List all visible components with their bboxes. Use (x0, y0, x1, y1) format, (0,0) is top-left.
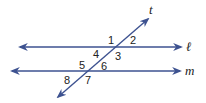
transversal-t (58, 19, 148, 97)
angle-label-7: 7 (85, 74, 91, 86)
line-label-m: m (185, 63, 194, 78)
angle-label-4: 4 (93, 48, 99, 60)
angle-label-2: 2 (130, 34, 136, 46)
angle-label-6: 6 (101, 60, 107, 72)
angle-label-5: 5 (79, 59, 85, 71)
angle-label-3: 3 (115, 50, 121, 62)
angle-label-8: 8 (64, 74, 70, 86)
parallel-lines-diagram: ℓ m t 1 2 3 4 5 6 7 8 (0, 0, 206, 103)
line-label-t: t (149, 2, 153, 17)
line-label-l: ℓ (186, 39, 192, 54)
angle-label-1: 1 (108, 34, 114, 46)
